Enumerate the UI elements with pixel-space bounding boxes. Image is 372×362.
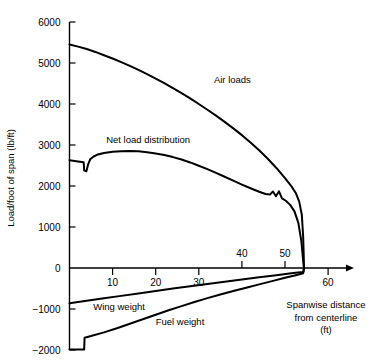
series-line-wing-weight — [70, 268, 304, 303]
y-tick-label: 3000 — [38, 140, 61, 151]
x-tick-label: 40 — [236, 248, 248, 259]
x-tick-label: 50 — [279, 248, 291, 259]
x-axis-title-line-1: Spanwise distance — [286, 299, 365, 310]
x-tick-label: 10 — [107, 277, 119, 288]
annotation-wing-weight: Wing weight — [93, 301, 145, 312]
y-tick-label: −2000 — [32, 345, 61, 356]
x-tick-label: 20 — [150, 277, 162, 288]
annotation-fuel-weight: Fuel weight — [156, 316, 205, 327]
y-tick-label: −1000 — [32, 304, 61, 315]
y-tick-label: 1000 — [38, 222, 61, 233]
annotation-air-loads: Air loads — [214, 74, 251, 85]
y-tick-label: 0 — [55, 263, 61, 274]
y-tick-label: 2000 — [38, 181, 61, 192]
y-axis-title: Load/foot of span (lb/ft) — [5, 129, 16, 227]
chart-container: 6000500040003000200010000−1000−200010203… — [0, 0, 372, 362]
x-tick-label: 60 — [323, 277, 335, 288]
annotation-net-load-distribution: Net load distribution — [106, 134, 190, 145]
y-tick-label: 6000 — [38, 17, 61, 28]
x-axis-title-line-2: from centerline — [295, 312, 358, 323]
x-axis-arrow-icon — [346, 264, 354, 271]
series-line-air-loads — [70, 45, 304, 268]
chart-plot-svg: 6000500040003000200010000−1000−200010203… — [0, 0, 372, 362]
y-tick-label: 4000 — [38, 99, 61, 110]
x-tick-label: 30 — [193, 277, 205, 288]
series-line-net-load-distribution — [70, 151, 304, 268]
x-axis-title-line-3: (ft) — [320, 324, 332, 335]
y-tick-label: 5000 — [38, 58, 61, 69]
